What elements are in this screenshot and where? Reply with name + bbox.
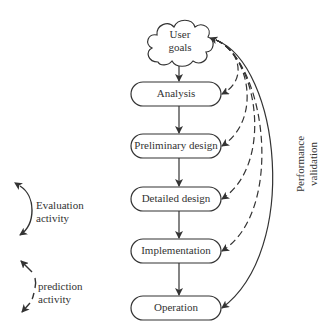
prediction-arrow-detailed xyxy=(216,40,255,199)
legend-prediction-arrow-bottom xyxy=(22,303,30,312)
analysis-label: Analysis xyxy=(131,87,221,99)
legend-prediction-line2: activity xyxy=(38,293,83,306)
detailed-design-label: Detailed design xyxy=(131,192,221,204)
implementation-label: Implementation xyxy=(131,244,221,256)
legend-evaluation-line2: activity xyxy=(36,212,84,225)
operation-label: Operation xyxy=(131,301,221,313)
legend-prediction-dash-1 xyxy=(35,278,36,288)
legend-evaluation-line1: Evaluation xyxy=(36,199,84,212)
user-goals-label-line2: goals xyxy=(156,41,204,54)
legend-prediction-label: prediction activity xyxy=(38,280,83,306)
legend-evaluation-arrow xyxy=(20,186,32,235)
legend-prediction-arrow-top xyxy=(21,261,32,272)
legend-evaluation-label: Evaluation activity xyxy=(36,199,84,225)
performance-validation-label: Performance validation xyxy=(294,124,322,204)
legend-prediction-dash-2 xyxy=(32,293,34,299)
user-goals-label-line1: User xyxy=(156,28,204,41)
legend-prediction-line1: prediction xyxy=(38,280,83,293)
performance-validation-line2: validation xyxy=(307,124,320,204)
performance-validation-line1: Performance xyxy=(294,124,307,204)
preliminary-design-label: Preliminary design xyxy=(131,139,221,151)
user-goals-label: User goals xyxy=(156,28,204,54)
